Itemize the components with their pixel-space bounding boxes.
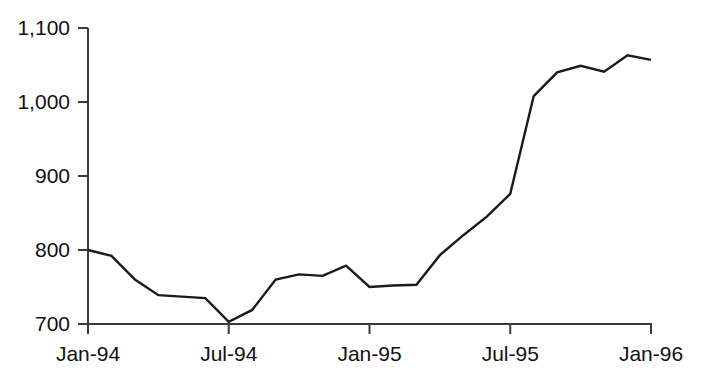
- x-axis-tick-label: Jul-95: [482, 342, 539, 366]
- y-axis-tick-label: 800: [0, 238, 70, 262]
- x-axis-tick-label: Jan-95: [337, 342, 401, 366]
- x-axis-tick-label: Jan-94: [56, 342, 120, 366]
- x-axis-tick-label: Jan-96: [619, 342, 683, 366]
- line-chart: 7008009001,0001,100 Jan-94Jul-94Jan-95Ju…: [0, 0, 703, 388]
- y-axis-tick-label: 900: [0, 164, 70, 188]
- chart-plot-area: [0, 0, 703, 388]
- y-axis-tick-label: 1,100: [0, 16, 70, 40]
- data-line-series-1: [88, 55, 651, 321]
- chart-axes: [78, 28, 652, 334]
- y-axis-tick-label: 700: [0, 312, 70, 336]
- y-axis-tick-label: 1,000: [0, 90, 70, 114]
- x-axis-tick-label: Jul-94: [200, 342, 257, 366]
- chart-series-layer: [88, 55, 651, 321]
